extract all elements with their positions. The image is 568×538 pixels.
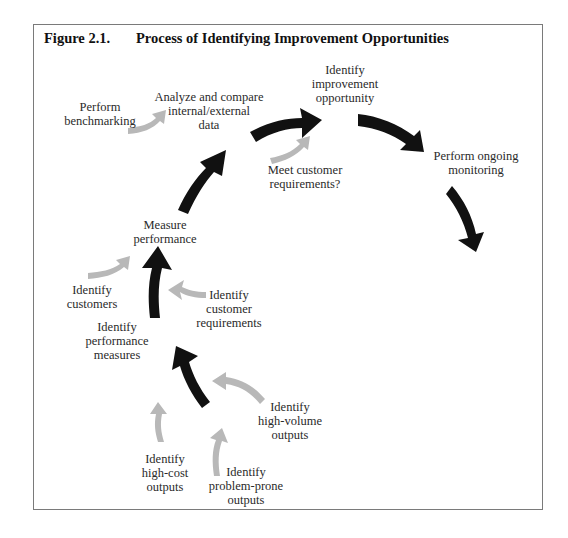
input-arrow-customers [88, 256, 130, 279]
arrows-layer [0, 0, 568, 538]
main-arrow-to-analyze [178, 150, 226, 214]
main-arrow-to-measure-performance [142, 246, 172, 318]
node-analyze-compare-data: Analyze and compare internal/external da… [155, 90, 264, 132]
node-identify-problem-prone-outputs: Identify problem-prone outputs [209, 465, 283, 507]
node-identify-improvement-opportunity: Identify improvement opportunity [312, 63, 379, 105]
node-identify-high-cost-outputs: Identify high-cost outputs [142, 452, 189, 494]
node-perform-benchmarking: Perform benchmarking [64, 100, 136, 128]
node-identify-high-volume-outputs: Identify high-volume outputs [258, 400, 322, 442]
node-identify-customer-requirements: Identify customer requirements [196, 288, 261, 330]
node-identify-customers: Identify customers [67, 283, 118, 311]
node-identify-performance-measures: Identify performance measures [85, 320, 148, 362]
main-arrow-to-performance-measures [172, 346, 210, 408]
main-arrow-to-monitoring [358, 114, 424, 152]
input-arrow-meet-requirements [270, 136, 310, 164]
node-meet-customer-requirements: Meet customer requirements? [268, 163, 343, 191]
input-arrow-high-volume [212, 372, 265, 404]
node-perform-ongoing-monitoring: Perform ongoing monitoring [433, 149, 518, 177]
main-arrow-out-of-monitoring [446, 186, 484, 252]
node-measure-performance: Measure performance [133, 218, 196, 246]
input-arrow-high-cost [150, 402, 167, 442]
